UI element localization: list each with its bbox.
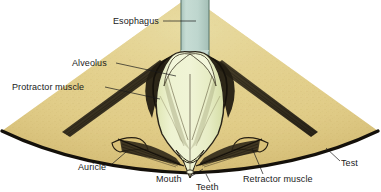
diagram-canvas: Esophagus Alveolus Protractor muscle Aur… <box>0 0 381 192</box>
label-esophagus: Esophagus <box>113 16 159 26</box>
label-alveolus: Alveolus <box>72 58 107 68</box>
mouth-opening <box>187 170 194 174</box>
label-teeth: Teeth <box>196 182 219 192</box>
label-retractor-muscle: Retractor muscle <box>243 174 313 184</box>
label-mouth: Mouth <box>156 174 182 184</box>
label-auricle: Auricle <box>78 162 106 172</box>
label-test: Test <box>341 158 358 168</box>
anatomical-diagram-figure: Esophagus Alveolus Protractor muscle Aur… <box>0 0 381 192</box>
leader-teeth <box>206 174 210 182</box>
label-protractor-muscle: Protractor muscle <box>12 82 84 92</box>
